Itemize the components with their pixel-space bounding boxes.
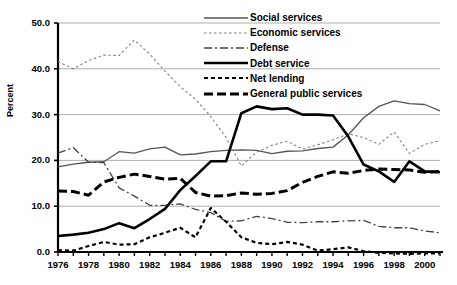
legend-economic-services-label: Economic services xyxy=(248,27,341,38)
y-tick-label: 50.0 xyxy=(18,17,50,28)
x-tick-label: 1994 xyxy=(316,259,350,270)
legend-net-lending-label: Net lending xyxy=(248,73,304,84)
y-tick-label: 30.0 xyxy=(18,109,50,120)
series-line-net-lending xyxy=(58,208,440,254)
legend-social-services[interactable]: Social services xyxy=(204,10,454,25)
x-tick-label: 1980 xyxy=(102,259,136,270)
x-tick-label: 1978 xyxy=(72,259,106,270)
x-tick-label: 1976 xyxy=(41,259,75,270)
y-tick-label: 10.0 xyxy=(18,200,50,211)
legend-general-public-services[interactable]: General public services xyxy=(204,86,454,101)
legend-debt-service-swatch-icon xyxy=(204,57,248,69)
legend-economic-services[interactable]: Economic services xyxy=(204,25,454,40)
x-tick-label: 1984 xyxy=(163,259,197,270)
x-tick-label: 2000 xyxy=(408,259,442,270)
x-tick-label: 1990 xyxy=(255,259,289,270)
legend-social-services-swatch-icon xyxy=(204,12,248,24)
chart-legend: Social servicesEconomic servicesDefenseD… xyxy=(204,10,454,101)
legend-economic-services-swatch-icon xyxy=(204,27,248,39)
x-tick-label: 1998 xyxy=(377,259,411,270)
legend-debt-service[interactable]: Debt service xyxy=(204,56,454,71)
y-tick-label: 20.0 xyxy=(18,154,50,165)
y-tick-label: 40.0 xyxy=(18,63,50,74)
legend-net-lending-swatch-icon xyxy=(204,72,248,84)
y-tick-label: 0.0 xyxy=(18,246,50,257)
series-line-debt-service xyxy=(58,106,440,236)
x-tick-label: 1982 xyxy=(133,259,167,270)
legend-defense-label: Defense xyxy=(248,42,289,53)
legend-social-services-label: Social services xyxy=(248,12,322,23)
legend-debt-service-label: Debt service xyxy=(248,58,309,69)
legend-defense-swatch-icon xyxy=(204,42,248,54)
legend-general-public-services-swatch-icon xyxy=(204,88,248,100)
x-tick-label: 1992 xyxy=(285,259,319,270)
x-tick-label: 1986 xyxy=(194,259,228,270)
chart-figure: Percent 0.010.020.030.040.050.0 19761978… xyxy=(0,0,457,285)
x-tick-label: 1996 xyxy=(347,259,381,270)
legend-net-lending[interactable]: Net lending xyxy=(204,71,454,86)
legend-defense[interactable]: Defense xyxy=(204,40,454,55)
x-tick-label: 1988 xyxy=(224,259,258,270)
legend-general-public-services-label: General public services xyxy=(248,88,362,99)
